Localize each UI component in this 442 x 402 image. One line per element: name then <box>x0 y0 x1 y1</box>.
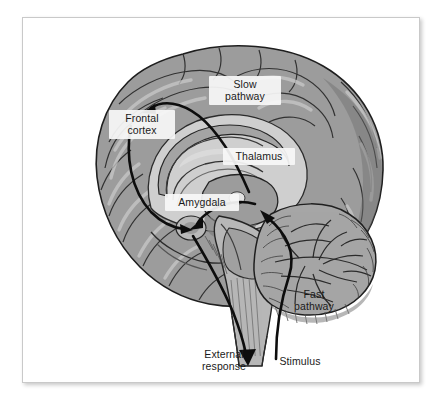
label-thalamus: Thalamus <box>223 148 295 165</box>
label-frontal-cortex: Frontal cortex <box>109 110 175 139</box>
label-fast-pathway: Fast pathway <box>285 288 343 312</box>
label-external-response: External response <box>194 348 254 372</box>
label-amygdala: Amygdala <box>165 194 239 211</box>
label-slow-pathway: Slow pathway <box>209 76 281 105</box>
label-stimulus: Stimulus <box>273 355 327 367</box>
figure-panel: Slow pathway Frontal cortex Thalamus Amy… <box>22 17 420 383</box>
